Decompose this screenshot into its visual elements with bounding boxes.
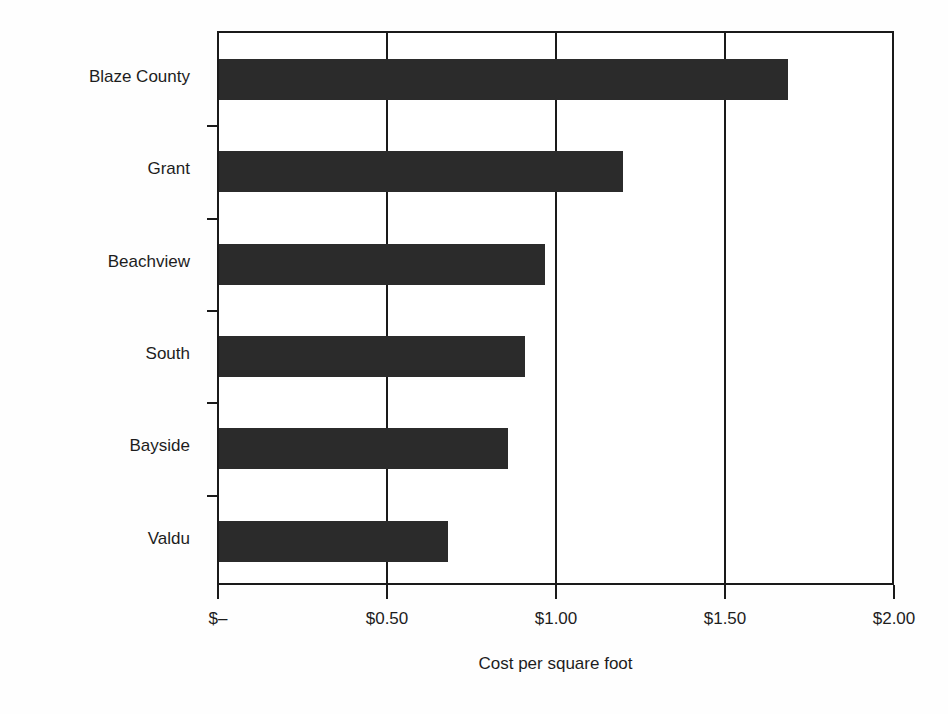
x-axis-tick-4 (893, 585, 895, 599)
bar-slot-2 (219, 218, 892, 310)
bar-blaze-county[interactable] (219, 59, 788, 100)
y-axis-label-5: Valdu (0, 529, 190, 549)
x-axis-tick-0 (217, 585, 219, 599)
bar-valdu[interactable] (219, 521, 448, 562)
bar-south[interactable] (219, 336, 525, 377)
x-axis-label-0: $– (148, 608, 288, 630)
bar-grant[interactable] (219, 151, 623, 192)
y-axis-tick-1 (207, 125, 219, 127)
bar-slot-5 (219, 495, 892, 587)
bar-slot-3 (219, 310, 892, 402)
y-axis-label-4: Bayside (0, 436, 190, 456)
y-axis-label-0: Blaze County (0, 67, 190, 87)
x-axis-title: Cost per square foot (217, 653, 894, 675)
bar-chart: Blaze County Grant Beachview South Baysi… (0, 0, 948, 714)
x-axis-tick-2 (555, 585, 557, 599)
y-axis-tick-4 (207, 402, 219, 404)
y-axis-tick-2 (207, 218, 219, 220)
x-axis-label-1: $0.50 (317, 608, 457, 630)
y-axis-label-2: Beachview (0, 252, 190, 272)
bars-layer (219, 33, 892, 583)
y-axis-tick-5 (207, 495, 219, 497)
y-axis-tick-3 (207, 310, 219, 312)
bar-slot-4 (219, 402, 892, 494)
x-axis-tick-3 (724, 585, 726, 599)
y-axis-label-3: South (0, 344, 190, 364)
bar-bayside[interactable] (219, 428, 508, 469)
x-axis-label-4: $2.00 (824, 608, 948, 630)
x-axis-label-3: $1.50 (655, 608, 795, 630)
bar-slot-1 (219, 125, 892, 217)
y-axis-label-1: Grant (0, 159, 190, 179)
plot-area (217, 31, 894, 585)
bar-slot-0 (219, 33, 892, 125)
bar-beachview[interactable] (219, 244, 545, 285)
x-axis-tick-1 (386, 585, 388, 599)
x-axis-label-2: $1.00 (486, 608, 626, 630)
